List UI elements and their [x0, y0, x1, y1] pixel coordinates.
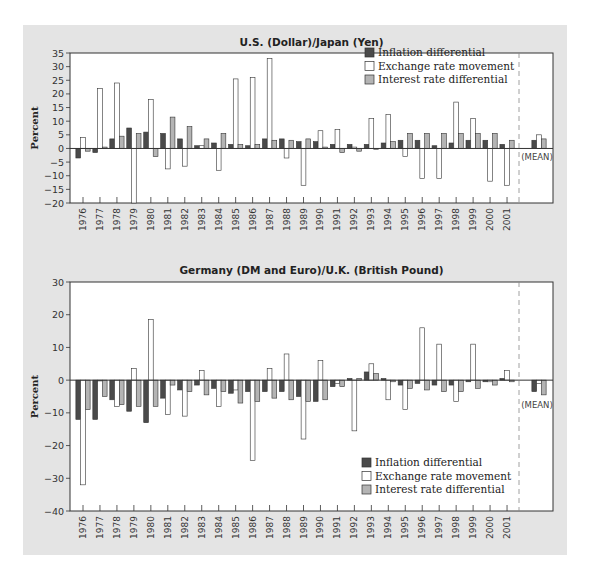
y-tick-label: 10	[52, 116, 64, 127]
bar-inflation	[296, 142, 301, 149]
x-tick-label: 1999	[468, 516, 478, 539]
bar-interest	[119, 136, 124, 148]
x-tick-label: 2000	[485, 516, 495, 539]
x-tick-label: 1994	[383, 208, 393, 231]
bar-interest	[204, 139, 209, 149]
legend-swatch-exchange	[362, 472, 371, 481]
y-tick-label: 0	[58, 143, 64, 154]
bar-inflation	[296, 380, 301, 396]
bar-inflation	[161, 380, 166, 398]
bar-interest	[153, 148, 158, 156]
x-tick-label: 1985	[231, 516, 241, 539]
legend-label-interest: Interest rate differential	[378, 73, 508, 85]
bar-exchange	[284, 354, 289, 380]
x-tick-label: 1986	[248, 208, 258, 231]
legend: Inflation differentialExchange rate move…	[365, 46, 515, 85]
bar-interest	[492, 380, 497, 385]
bar-exchange	[454, 102, 459, 148]
bar-interest	[340, 380, 345, 387]
y-tick-label: 30	[52, 277, 64, 288]
bar-exchange	[267, 369, 272, 380]
y-tick-label: −40	[44, 506, 64, 517]
bar-inflation	[212, 380, 217, 388]
bar-inflation	[279, 380, 284, 391]
bar-exchange	[182, 148, 187, 166]
bar-interest	[187, 380, 192, 391]
bar-inflation	[229, 144, 234, 148]
x-tick-label: 2000	[485, 208, 495, 231]
x-tick-label: 1977	[95, 208, 105, 231]
bar-interest	[170, 117, 175, 148]
bar-interest	[255, 144, 260, 148]
bar-exchange	[250, 78, 255, 149]
x-tick-label: 1984	[214, 208, 224, 231]
x-tick-label: 1986	[248, 516, 258, 539]
mean-label: (MEAN)	[521, 400, 553, 410]
bar-inflation	[144, 380, 149, 423]
bar-interest	[492, 133, 497, 148]
bar-exchange	[454, 380, 459, 401]
y-tick-label: 35	[52, 48, 64, 59]
bar-inflation	[398, 140, 403, 148]
x-tick-label: 1993	[366, 208, 376, 231]
x-tick-label: 1980	[146, 516, 156, 539]
bar-exchange	[301, 148, 306, 185]
bar-exchange	[403, 148, 408, 156]
bar-inflation	[364, 144, 369, 148]
y-tick-label: −10	[44, 407, 64, 418]
mean-bar-inflation	[532, 140, 537, 148]
bar-interest	[323, 380, 328, 400]
bar-inflation	[330, 380, 335, 387]
bar-inflation	[195, 380, 200, 385]
x-tick-label: 1996	[417, 516, 427, 539]
chart-2: Germany (DM and Euro)/U.K. (British Poun…	[29, 264, 553, 539]
y-tick-label: 15	[52, 102, 64, 113]
x-tick-label: 1989	[299, 208, 309, 231]
bar-interest	[153, 380, 158, 406]
x-tick-label: 1978	[112, 208, 122, 231]
bar-inflation	[110, 139, 115, 149]
y-tick-label: 20	[52, 88, 64, 99]
chart-title: Germany (DM and Euro)/U.K. (British Poun…	[180, 264, 444, 276]
x-tick-label: 1988	[282, 516, 292, 539]
bar-interest	[306, 139, 311, 149]
chart-title: U.S. (Dollar)/Japan (Yen)	[239, 36, 383, 48]
bar-inflation	[144, 132, 149, 148]
bar-inflation	[398, 380, 403, 385]
bar-exchange	[301, 380, 306, 439]
x-tick-label: 1991	[332, 516, 342, 539]
bar-exchange	[488, 148, 493, 181]
bar-interest	[391, 142, 396, 149]
bar-interest	[306, 380, 311, 401]
bar-inflation	[483, 140, 488, 148]
bar-exchange	[233, 380, 238, 390]
x-tick-label: 1984	[214, 516, 224, 539]
bar-exchange	[81, 380, 86, 485]
bar-exchange	[148, 320, 153, 381]
bar-exchange	[471, 344, 476, 380]
bar-exchange	[199, 370, 204, 380]
bar-inflation	[313, 142, 318, 149]
x-tick-label: 1992	[349, 208, 359, 231]
bar-inflation	[127, 380, 132, 411]
bar-interest	[442, 380, 447, 391]
bar-exchange	[369, 364, 374, 380]
x-tick-label: 1998	[451, 516, 461, 539]
x-tick-label: 1999	[468, 208, 478, 231]
bar-exchange	[403, 380, 408, 409]
bar-exchange	[250, 380, 255, 460]
x-tick-label: 1990	[315, 208, 325, 231]
bar-inflation	[93, 380, 98, 419]
x-tick-label: 1983	[197, 208, 207, 231]
mean-bar-exchange	[537, 135, 542, 149]
bar-exchange	[386, 380, 391, 400]
bar-exchange	[81, 138, 86, 149]
bar-interest	[119, 380, 124, 405]
x-tick-label: 1988	[282, 208, 292, 231]
bar-inflation	[178, 380, 183, 390]
bar-exchange	[165, 380, 170, 414]
x-tick-label: 1987	[265, 516, 275, 539]
x-tick-label: 1979	[129, 208, 139, 231]
bar-interest	[475, 133, 480, 148]
legend-swatch-exchange	[365, 62, 374, 71]
